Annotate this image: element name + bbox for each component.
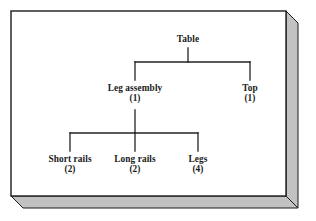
node-legs: Legs (4) xyxy=(189,154,208,174)
framed-box xyxy=(0,0,316,221)
node-leg-assembly-label: Leg assembly xyxy=(108,83,163,93)
node-top: Top (1) xyxy=(242,83,257,103)
node-short-rails-quantity: (2) xyxy=(48,164,91,174)
node-short-rails: Short rails (2) xyxy=(48,154,91,174)
frame-bottom-bevel xyxy=(11,196,298,208)
node-leg-assembly-quantity: (1) xyxy=(108,93,163,103)
node-short-rails-label: Short rails xyxy=(48,154,91,164)
frame-right-bevel xyxy=(286,11,298,208)
node-top-label: Top xyxy=(242,83,257,93)
node-long-rails: Long rails (2) xyxy=(114,154,156,174)
node-table-label: Table xyxy=(177,34,199,44)
node-leg-assembly: Leg assembly (1) xyxy=(108,83,163,103)
node-table: Table xyxy=(177,34,199,44)
frame-bevel-graphic xyxy=(0,0,316,221)
node-long-rails-label: Long rails xyxy=(114,154,156,164)
node-long-rails-quantity: (2) xyxy=(114,164,156,174)
node-top-quantity: (1) xyxy=(242,93,257,103)
diagram-screenshot: Table Leg assembly (1) Top (1) Short rai… xyxy=(0,0,316,221)
node-legs-quantity: (4) xyxy=(189,164,208,174)
node-legs-label: Legs xyxy=(189,154,208,164)
